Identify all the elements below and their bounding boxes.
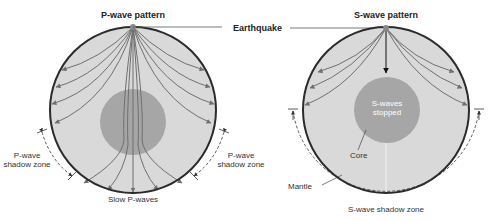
p-wave-earth xyxy=(37,24,229,193)
slow-p-waves-label: Slow P-waves xyxy=(98,195,168,205)
core-text-line2: stopped xyxy=(357,108,417,118)
earthquake-label: Earthquake xyxy=(233,23,282,33)
mantle-label: Mantle xyxy=(288,182,312,192)
earth-wave-diagram xyxy=(0,0,491,221)
p-shadow-left-line2: shadow zone xyxy=(0,160,54,170)
p-wave-title: P-wave pattern xyxy=(98,10,168,20)
core-label: Core xyxy=(350,151,367,161)
s-wave-title: S-wave pattern xyxy=(351,10,421,20)
s-shadow-label: S-wave shadow zone xyxy=(336,205,436,215)
p-shadow-right-line2: shadow zone xyxy=(214,160,268,170)
